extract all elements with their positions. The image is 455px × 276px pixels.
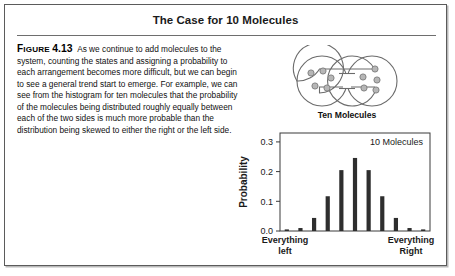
histogram-bar: [394, 218, 398, 231]
title-divider: [17, 35, 436, 36]
y-axis-tick-labels: 0.00.10.20.3: [260, 137, 273, 236]
x-axis-right-note-line1: Everything: [388, 235, 435, 245]
histogram-bar: [326, 196, 330, 231]
histogram-bar: [380, 196, 384, 231]
histogram-bar: [353, 158, 357, 231]
probability-histogram: 0.00.10.20.3 10 Molecules Probability Ev…: [233, 131, 438, 257]
molecule-dots-right: [360, 66, 380, 93]
histogram-bar: [285, 229, 289, 231]
chart-annotation: 10 Molecules: [370, 137, 424, 147]
y-tick-label: 0.1: [260, 197, 273, 207]
histogram-bar: [407, 228, 411, 231]
x-axis-left-note-line2: left: [278, 246, 292, 256]
x-axis-left-note-line1: Everything: [262, 235, 309, 245]
figure-label-number: 4.13: [52, 43, 72, 54]
histogram-bar: [339, 170, 343, 231]
histogram-bar: [298, 228, 302, 231]
figure-caption-text: As we continue to add molecules to the s…: [17, 44, 237, 135]
figure-label-prefix: FIGURE: [17, 45, 50, 54]
y-tick-label: 0.3: [260, 137, 273, 147]
histogram-bars: [285, 158, 426, 231]
two-bulb-container-diagram: [267, 45, 427, 117]
histogram-bar: [421, 229, 425, 231]
y-axis-ticks: [276, 142, 280, 231]
y-tick-label: 0.2: [260, 167, 273, 177]
y-axis-label: Probability: [238, 156, 249, 208]
x-axis-right-note-line2: Right: [400, 246, 423, 256]
figure-caption: FIGURE 4.13 As we continue to add molecu…: [17, 43, 239, 136]
bulb-circles: [297, 56, 397, 106]
figure-panel: The Case for 10 Molecules FIGURE 4.13 As…: [4, 4, 447, 266]
molecule-dots-left: [308, 68, 334, 91]
page-title: The Case for 10 Molecules: [5, 14, 446, 26]
histogram-bar: [312, 218, 316, 231]
histogram-bar: [367, 170, 371, 231]
diagram-caption: Ten Molecules: [267, 110, 427, 120]
